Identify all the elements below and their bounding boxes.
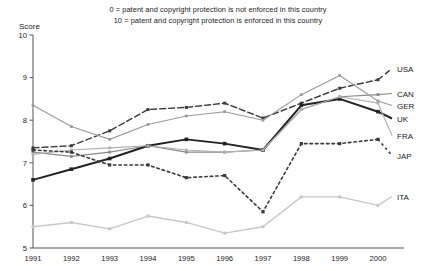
data-point <box>147 108 150 111</box>
series-line <box>33 95 378 157</box>
data-point <box>338 195 341 198</box>
data-point <box>108 151 111 154</box>
legend: USACANGERUKFRAJAPITA <box>378 65 415 205</box>
data-point <box>300 103 304 107</box>
data-point <box>70 151 73 154</box>
x-tick-label: 1995 <box>178 254 195 263</box>
x-tick-label: 1993 <box>101 254 118 263</box>
data-point <box>338 95 341 98</box>
series-can <box>32 93 380 158</box>
series-line <box>33 75 378 139</box>
legend-leader-line <box>378 69 392 80</box>
line-chart: 5678910199119921993199419951996199719981… <box>0 0 435 271</box>
data-point <box>108 146 111 149</box>
chart-page: 0 = patent and copyright protection is n… <box>0 0 435 271</box>
data-point <box>223 102 226 105</box>
x-tick-label: 1997 <box>255 254 272 263</box>
series-uk <box>31 97 380 182</box>
data-point <box>70 221 73 224</box>
legend-leader-line <box>378 103 392 135</box>
data-point <box>223 151 226 154</box>
data-point <box>223 174 226 177</box>
y-tick-label: 9 <box>23 73 27 82</box>
legend-leader-line <box>378 94 392 95</box>
data-point <box>185 115 188 118</box>
data-point <box>70 144 73 147</box>
data-point <box>338 74 341 77</box>
legend-label-ger: GER <box>397 102 415 111</box>
data-point <box>223 110 226 113</box>
series-ger <box>32 74 380 141</box>
data-point <box>338 142 341 145</box>
x-tick-label: 2000 <box>370 254 387 263</box>
data-point <box>147 215 150 218</box>
data-point <box>223 142 227 146</box>
data-point <box>108 157 112 161</box>
data-point <box>300 93 303 96</box>
legend-leader-line <box>378 197 392 206</box>
data-point <box>185 176 188 179</box>
data-point <box>338 87 341 90</box>
data-point <box>32 153 35 156</box>
data-point <box>185 138 189 142</box>
x-tick-label: 1996 <box>216 254 233 263</box>
legend-label-can: CAN <box>397 90 414 99</box>
data-point <box>108 227 111 230</box>
data-point <box>32 104 35 107</box>
data-point <box>261 210 264 213</box>
axes: 5678910199119921993199419951996199719981… <box>19 31 404 263</box>
data-point <box>185 106 188 109</box>
legend-label-usa: USA <box>397 65 414 74</box>
legend-leader-line <box>378 139 392 155</box>
legend-label-jap: JAP <box>397 152 412 161</box>
data-point <box>262 149 265 152</box>
legend-label-uk: UK <box>397 115 409 124</box>
x-tick-label: 1992 <box>63 254 80 263</box>
y-tick-label: 5 <box>23 244 27 253</box>
data-point <box>300 195 303 198</box>
series-fra <box>32 95 380 155</box>
data-point <box>32 225 35 228</box>
y-tick-label: 8 <box>23 116 27 125</box>
y-tick-label: 6 <box>23 201 27 210</box>
legend-label-ita: ITA <box>397 193 410 202</box>
y-tick-label: 10 <box>19 31 27 40</box>
data-point <box>223 232 226 235</box>
series-line <box>33 139 378 211</box>
data-point <box>70 125 73 128</box>
y-tick-label: 7 <box>23 159 27 168</box>
legend-label-fra: FRA <box>397 132 414 141</box>
x-tick-label: 1999 <box>331 254 348 263</box>
data-point <box>108 163 111 166</box>
data-point <box>300 142 303 145</box>
legend-leader-line <box>378 101 392 105</box>
x-tick-label: 1998 <box>293 254 310 263</box>
x-tick-label: 1991 <box>25 254 42 263</box>
series-ita <box>32 195 380 234</box>
data-point <box>70 167 74 171</box>
data-point <box>108 129 111 132</box>
data-point <box>31 148 34 151</box>
data-point <box>108 138 111 141</box>
series-line <box>33 197 378 233</box>
data-point <box>262 119 265 122</box>
x-tick-label: 1994 <box>140 254 157 263</box>
data-point <box>146 163 149 166</box>
series-line <box>33 99 378 180</box>
data-point <box>185 149 188 152</box>
data-point <box>31 178 35 182</box>
data-point <box>300 108 303 111</box>
data-point <box>147 144 150 147</box>
data-point <box>185 221 188 224</box>
data-point <box>262 225 265 228</box>
data-point <box>147 123 150 126</box>
legend-leader-line <box>378 112 392 119</box>
data-point <box>70 155 73 158</box>
